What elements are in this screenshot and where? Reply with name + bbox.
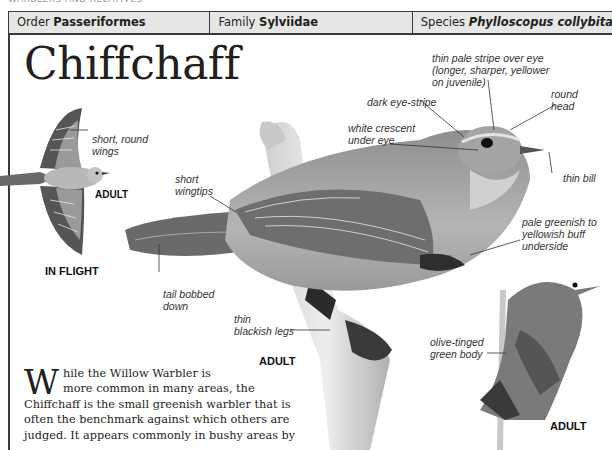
label-dark-eye-stripe: dark eye-stripe — [367, 96, 436, 108]
tag-small-adult: ADULT — [550, 420, 586, 432]
tag-in-flight: IN FLIGHT — [45, 265, 99, 277]
label-pale-stripe-over-eye: thin pale stripe over eye (longer, sharp… — [432, 52, 549, 88]
drop-cap: W — [24, 368, 59, 396]
label-short-round-wings: short, round wings — [92, 133, 148, 157]
label-round-head: round head — [551, 88, 578, 112]
main-bird-illustration — [125, 126, 545, 291]
flight-bird-illustration — [0, 108, 110, 255]
label-underside: pale greenish to yellowish buff undersid… — [522, 216, 597, 252]
body-line-1: hile the Willow Warbler is — [24, 366, 304, 381]
body-rest: Chiffchaff is the small greenish warbler… — [24, 398, 295, 442]
tag-flight-adult: ADULT — [95, 189, 128, 200]
label-thin-bill: thin bill — [563, 172, 596, 184]
label-olive-body: olive-tinged green body — [430, 336, 484, 360]
label-white-crescent: white crescent under eye — [348, 122, 415, 146]
label-tail-bobbed-down: tail bobbed down — [163, 288, 214, 312]
body-line-2: more common in many areas, the — [24, 381, 304, 396]
species-description: W hile the Willow Warbler is more common… — [24, 366, 304, 443]
label-short-wingtips: short wingtips — [175, 173, 213, 197]
label-thin-blackish-legs: thin blackish legs — [234, 313, 294, 337]
